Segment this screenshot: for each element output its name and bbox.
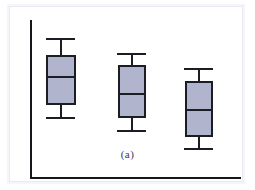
lower-whisker-cap-2	[117, 130, 146, 132]
box-2	[118, 65, 146, 118]
upper-whisker-stem-1	[60, 38, 62, 55]
median-line-1	[46, 76, 76, 78]
lower-whisker-stem-3	[198, 137, 200, 148]
plot-area: (a)	[0, 0, 255, 190]
upper-whisker-stem-2	[131, 53, 133, 65]
boxplot-figure: (a)	[0, 0, 255, 190]
lower-whisker-stem-2	[131, 118, 133, 130]
lower-whisker-cap-1	[46, 117, 75, 119]
median-line-2	[118, 93, 146, 95]
upper-whisker-stem-3	[198, 68, 200, 81]
box-1	[46, 55, 76, 105]
x-axis	[30, 177, 241, 179]
median-line-3	[185, 109, 213, 111]
panel-label: (a)	[0, 148, 255, 160]
